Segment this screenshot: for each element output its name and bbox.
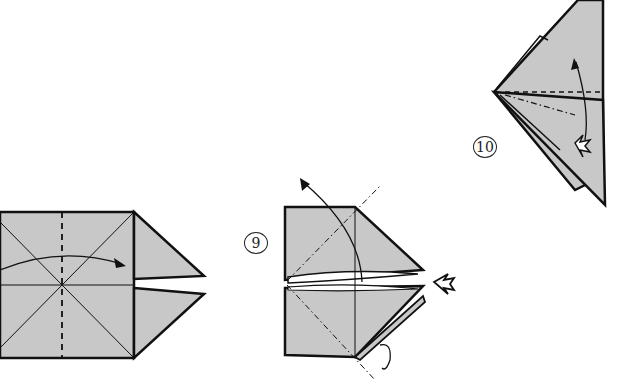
step-9-label: 9 [244,232,268,254]
origami-diagram [0,0,639,385]
push-arrow-icon [434,274,454,294]
step-10-figure [494,0,605,205]
step-10-label: 10 [473,136,497,158]
turn-over-arrow-icon [380,345,390,369]
step-8-figure [0,212,204,358]
step-9-figure [285,178,454,380]
fold-arrow-head-icon [300,178,310,191]
